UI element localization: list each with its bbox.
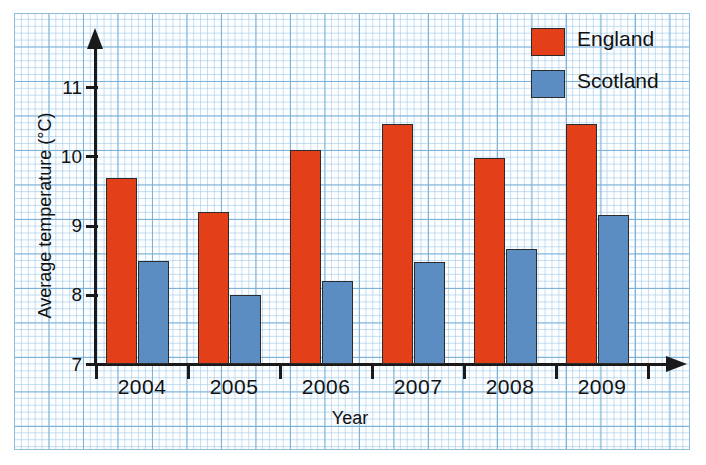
y-axis-title: Average temperature (°C) — [35, 86, 56, 346]
bar-england-2005 — [198, 212, 229, 364]
legend-label-scotland: Scotland — [577, 69, 659, 93]
x-axis-label-2006: 2006 — [280, 375, 372, 399]
bar-england-2008 — [474, 158, 505, 364]
x-axis-label-2004: 2004 — [96, 375, 188, 399]
x-axis-label-2005: 2005 — [188, 375, 280, 399]
y-axis-arrow-icon — [87, 28, 103, 49]
x-axis-arrow-icon — [666, 356, 687, 372]
bar-england-2006 — [290, 150, 321, 365]
x-axis-label-2009: 2009 — [556, 375, 648, 399]
y-axis-line — [94, 46, 97, 366]
bar-scotland-2008 — [506, 249, 537, 365]
bar-england-2004 — [106, 178, 137, 365]
x-axis-label-2007: 2007 — [372, 375, 464, 399]
y-axis-tick — [86, 225, 98, 228]
x-axis-title: Year — [285, 408, 415, 429]
bar-scotland-2007 — [414, 262, 445, 364]
bar-scotland-2005 — [230, 295, 261, 364]
bar-england-2009 — [566, 124, 597, 365]
y-axis-tick — [86, 155, 98, 158]
legend-swatch-scotland — [531, 70, 565, 98]
y-axis-tick-label: 10 — [58, 147, 82, 166]
y-axis-tick-label: 8 — [58, 285, 82, 304]
y-axis-tick-label: 9 — [58, 216, 82, 235]
y-axis-tick-label: 11 — [58, 78, 82, 97]
bar-england-2007 — [382, 124, 413, 365]
bar-scotland-2009 — [598, 215, 629, 364]
legend-label-england: England — [577, 27, 654, 51]
y-axis-tick — [86, 294, 98, 297]
y-axis-tick — [86, 86, 98, 89]
y-axis-tick-label: 7 — [58, 355, 82, 374]
bar-scotland-2004 — [138, 261, 169, 365]
x-axis-label-2008: 2008 — [464, 375, 556, 399]
bar-scotland-2006 — [322, 281, 353, 364]
bar-chart-plot: 1110987 200420052006200720082009 Year Av… — [0, 0, 706, 465]
legend-swatch-england — [531, 28, 565, 56]
chart-page: 1110987 200420052006200720082009 Year Av… — [0, 0, 706, 465]
